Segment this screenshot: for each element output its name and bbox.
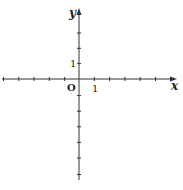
y-axis-label: y (68, 6, 77, 20)
x-axis-label: x (170, 79, 179, 93)
y-axis-arrow-icon (77, 8, 82, 15)
coordinate-plane: y x O 1 1 (0, 0, 183, 190)
origin-label: O (67, 82, 76, 93)
y-unit-label: 1 (70, 58, 76, 69)
x-unit-label: 1 (92, 83, 98, 94)
